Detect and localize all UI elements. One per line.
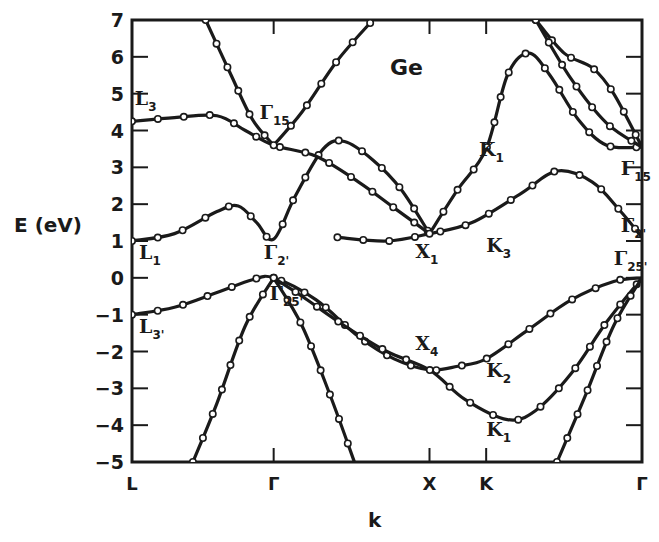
data-point-marker: [589, 104, 595, 110]
data-point-marker: [360, 237, 366, 243]
data-point-marker: [551, 168, 557, 174]
data-point-marker: [246, 314, 252, 320]
band-curve: [129, 137, 431, 244]
symmetry-point-label: Γ15: [621, 157, 651, 184]
data-point-marker: [219, 386, 225, 392]
data-point-marker: [594, 363, 600, 369]
data-point-marker: [270, 275, 276, 281]
data-point-marker: [440, 208, 446, 214]
data-point-marker: [584, 387, 590, 393]
data-point-marker: [253, 275, 259, 281]
data-point-marker: [302, 174, 308, 180]
data-point-marker: [459, 362, 465, 368]
data-point-marker: [546, 39, 552, 45]
data-point-marker: [202, 17, 208, 23]
y-tick-label: −2: [95, 341, 124, 363]
data-point-marker: [180, 302, 186, 308]
band-curve: [334, 168, 642, 244]
data-point-marker: [542, 65, 548, 71]
data-point-marker: [556, 87, 562, 93]
data-point-marker: [202, 214, 208, 220]
data-point-marker: [591, 66, 597, 72]
y-tick-label: 3: [111, 156, 124, 178]
data-point-marker: [263, 234, 269, 240]
symmetry-point-label: L3': [139, 315, 164, 342]
data-point-marker: [155, 308, 161, 314]
data-point-marker: [607, 143, 613, 149]
symmetry-point-label: Γ2': [264, 241, 290, 268]
data-point-marker: [279, 221, 285, 227]
data-point-marker: [359, 148, 365, 154]
data-point-marker: [403, 356, 409, 362]
data-point-marker: [454, 187, 460, 193]
data-point-marker: [529, 182, 535, 188]
data-point-marker: [369, 188, 375, 194]
data-point-marker: [470, 166, 476, 172]
data-point-marker: [335, 318, 341, 324]
chart-title: Ge: [390, 55, 423, 80]
symmetry-point-label: K1: [479, 138, 504, 165]
band-curve: [129, 275, 642, 373]
data-point-marker: [632, 132, 638, 138]
data-point-marker: [467, 399, 473, 405]
data-point-marker: [576, 172, 582, 178]
data-point-marker: [437, 228, 443, 234]
x-tick-label: Γ: [268, 473, 279, 494]
data-point-marker: [290, 197, 296, 203]
data-point-marker: [326, 160, 332, 166]
data-point-marker: [246, 111, 252, 117]
data-point-marker: [253, 134, 259, 140]
data-point-marker: [574, 411, 580, 417]
data-point-marker: [505, 341, 511, 347]
data-point-marker: [155, 234, 161, 240]
data-point-marker: [426, 230, 432, 236]
data-point-marker: [179, 227, 185, 233]
data-point-marker: [302, 149, 308, 155]
data-point-marker: [617, 277, 623, 283]
data-point-marker: [304, 102, 310, 108]
data-point-marker: [379, 346, 385, 352]
data-point-marker: [608, 86, 614, 92]
data-point-marker: [506, 69, 512, 75]
data-point-marker: [224, 64, 230, 70]
data-point-marker: [556, 385, 562, 391]
data-point-marker: [129, 311, 135, 317]
y-tick-label: −3: [95, 377, 124, 399]
y-tick-label: −4: [95, 414, 124, 436]
data-point-marker: [155, 116, 161, 122]
data-point-marker: [333, 59, 339, 65]
data-point-marker: [569, 296, 575, 302]
data-point-marker: [411, 205, 417, 211]
data-point-marker: [601, 322, 607, 328]
data-point-marker: [334, 234, 340, 240]
data-point-marker: [129, 238, 135, 244]
data-point-marker: [522, 50, 528, 56]
data-point-marker: [317, 367, 323, 373]
data-point-marker: [515, 416, 521, 422]
data-point-marker: [573, 83, 579, 89]
symmetry-point-label: L1: [139, 241, 161, 268]
data-point-marker: [598, 186, 604, 192]
x-tick-label: Γ: [636, 473, 647, 494]
data-point-marker: [621, 108, 627, 114]
data-point-marker: [297, 319, 303, 325]
data-point-marker: [348, 174, 354, 180]
data-point-marker: [261, 132, 267, 138]
data-point-marker: [207, 112, 213, 118]
data-point-marker: [508, 197, 514, 203]
data-point-marker: [427, 367, 433, 373]
data-point-marker: [486, 210, 492, 216]
data-point-marker: [229, 284, 235, 290]
data-point-marker: [411, 219, 417, 225]
data-point-marker: [628, 138, 634, 144]
data-point-marker: [336, 137, 342, 143]
data-point-marker: [357, 333, 363, 339]
data-point-marker: [533, 17, 539, 23]
data-point-marker: [345, 440, 351, 446]
data-point-marker: [270, 142, 276, 148]
data-point-marker: [526, 326, 532, 332]
y-tick-label: 1: [111, 230, 124, 252]
data-point-marker: [236, 337, 242, 343]
x-axis-label: k: [368, 508, 382, 532]
data-point-marker: [396, 184, 402, 190]
